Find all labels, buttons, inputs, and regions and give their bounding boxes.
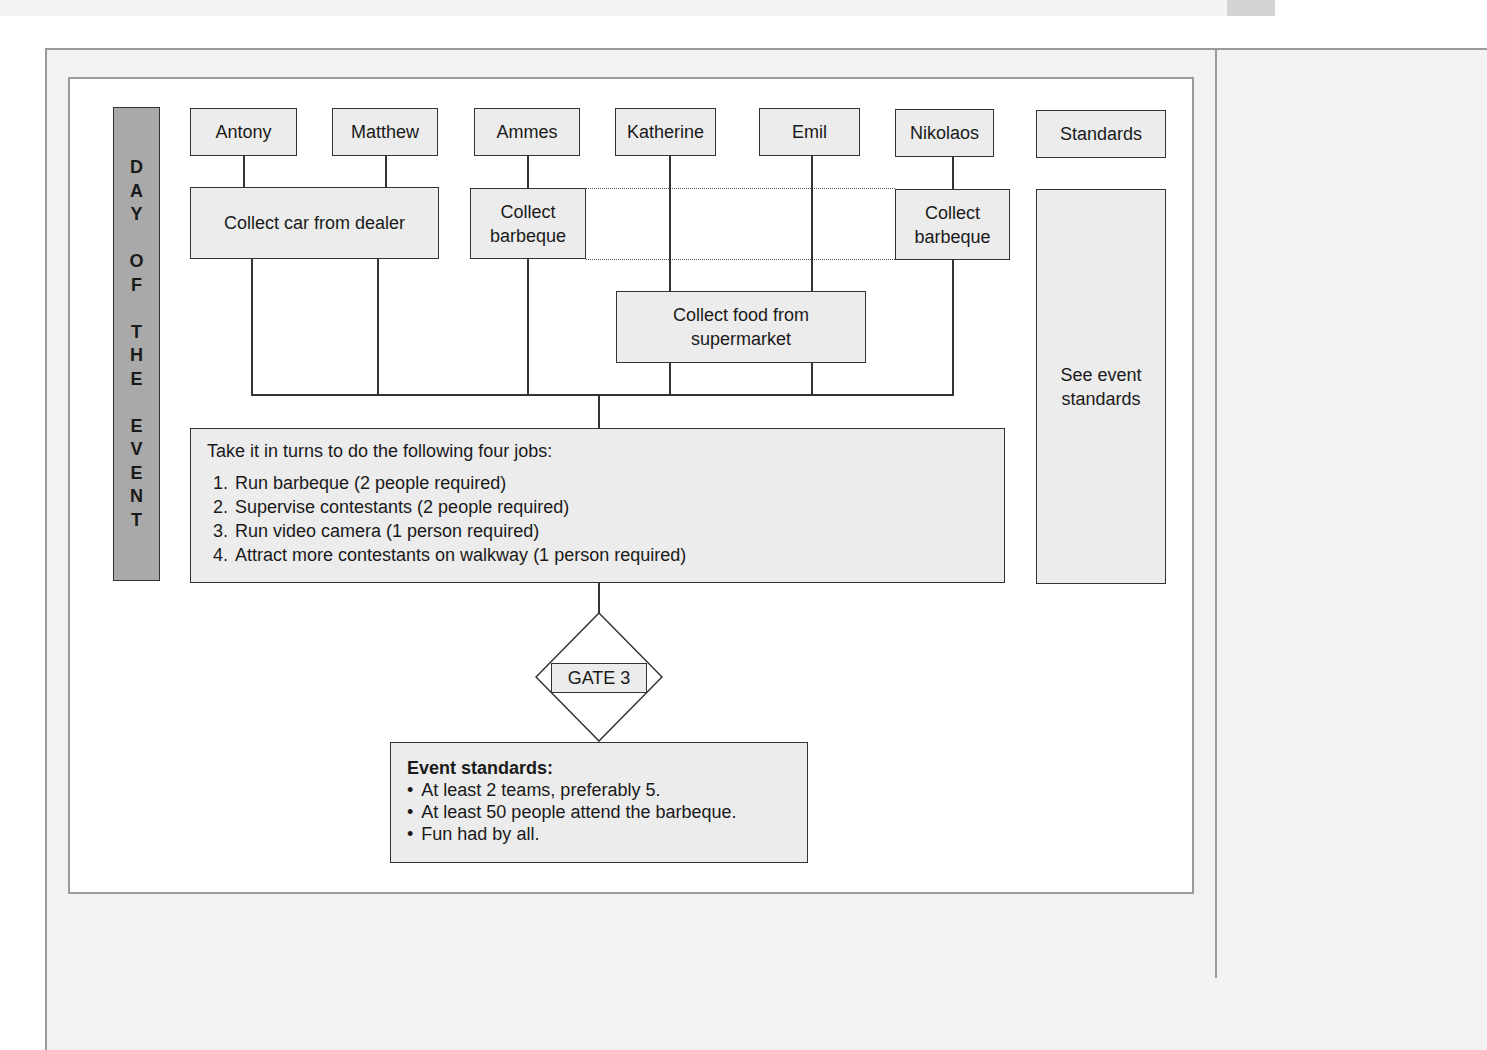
dotted-link-bottom [586, 259, 895, 260]
standard-item: At least 50 people attend the barbeque. [407, 801, 791, 823]
connector [811, 156, 813, 291]
standard-item: At least 2 teams, preferably 5. [407, 779, 791, 801]
jobs-list: Run barbeque (2 people required) Supervi… [207, 471, 988, 567]
person-name: Nikolaos [910, 121, 979, 145]
job-item: Run barbeque (2 people required) [233, 471, 988, 495]
connector [527, 156, 529, 188]
connector [527, 259, 529, 394]
sidebar-letter: Y [130, 203, 142, 227]
connector [377, 259, 379, 394]
person-ammes: Ammes [474, 108, 580, 156]
person-emil: Emil [759, 108, 860, 156]
task-label: Collect barbeque [481, 200, 575, 248]
sidebar-letter: E [130, 368, 142, 392]
gate-label-text: GATE 3 [568, 668, 631, 689]
top-band [0, 0, 1275, 16]
task-collect-barbeque-right: Collect barbeque [895, 189, 1010, 260]
merge-line [251, 394, 954, 396]
job-item: Run video camera (1 person required) [233, 519, 988, 543]
standards-header-label: Standards [1060, 122, 1142, 146]
task-collect-barbeque-left: Collect barbeque [470, 188, 586, 259]
task-label: Collect car from dealer [224, 211, 405, 235]
jobs-box: Take it in turns to do the following fou… [190, 428, 1005, 583]
day-of-the-event-label: D A Y O F T H E E V E N T [113, 107, 160, 581]
person-name: Matthew [351, 120, 419, 144]
dotted-link-top [586, 188, 895, 189]
sidebar-letter: F [131, 274, 142, 298]
person-name: Antony [215, 120, 271, 144]
jobs-intro: Take it in turns to do the following fou… [207, 439, 988, 463]
sidebar-letter: E [130, 415, 142, 439]
see-event-standards-box: See event standards [1036, 189, 1166, 584]
sidebar-letter: N [130, 485, 143, 509]
top-band-corner [1227, 0, 1275, 16]
person-katherine: Katherine [615, 108, 716, 156]
gate-label: GATE 3 [551, 663, 647, 693]
person-nikolaos: Nikolaos [895, 109, 994, 157]
person-matthew: Matthew [332, 108, 438, 156]
sidebar-letter: T [131, 509, 142, 533]
sidebar-letter: V [130, 438, 142, 462]
connector [811, 363, 813, 394]
event-standards-title: Event standards: [407, 757, 791, 779]
outer-frame-right-edge [1215, 48, 1217, 978]
sidebar-letter: O [129, 250, 143, 274]
sidebar-letter: A [130, 180, 143, 204]
person-antony: Antony [190, 108, 297, 156]
task-label: Collect barbeque [906, 201, 999, 249]
connector [952, 260, 954, 394]
connector [669, 156, 671, 291]
person-name: Katherine [627, 120, 704, 144]
event-standards-list: At least 2 teams, preferably 5. At least… [407, 779, 791, 845]
standards-header: Standards [1036, 110, 1166, 158]
standard-item: Fun had by all. [407, 823, 791, 845]
connector [251, 259, 253, 394]
connector [243, 156, 245, 187]
sidebar-letter: D [130, 156, 143, 180]
connector [385, 156, 387, 187]
task-collect-car: Collect car from dealer [190, 187, 439, 259]
person-name: Ammes [496, 120, 557, 144]
task-label: Collect food from supermarket [653, 303, 829, 351]
connector [669, 363, 671, 394]
sidebar-letter: E [130, 462, 142, 486]
connector [598, 394, 600, 428]
sidebar-letter: T [131, 321, 142, 345]
person-name: Emil [792, 120, 827, 144]
connector [952, 157, 954, 189]
sidebar-letter: H [130, 344, 143, 368]
see-standards-label: See event standards [1051, 363, 1151, 411]
task-collect-food: Collect food from supermarket [616, 291, 866, 363]
connector [598, 583, 600, 613]
job-item: Supervise contestants (2 people required… [233, 495, 988, 519]
event-standards-box: Event standards: At least 2 teams, prefe… [390, 742, 808, 863]
job-item: Attract more contestants on walkway (1 p… [233, 543, 988, 567]
